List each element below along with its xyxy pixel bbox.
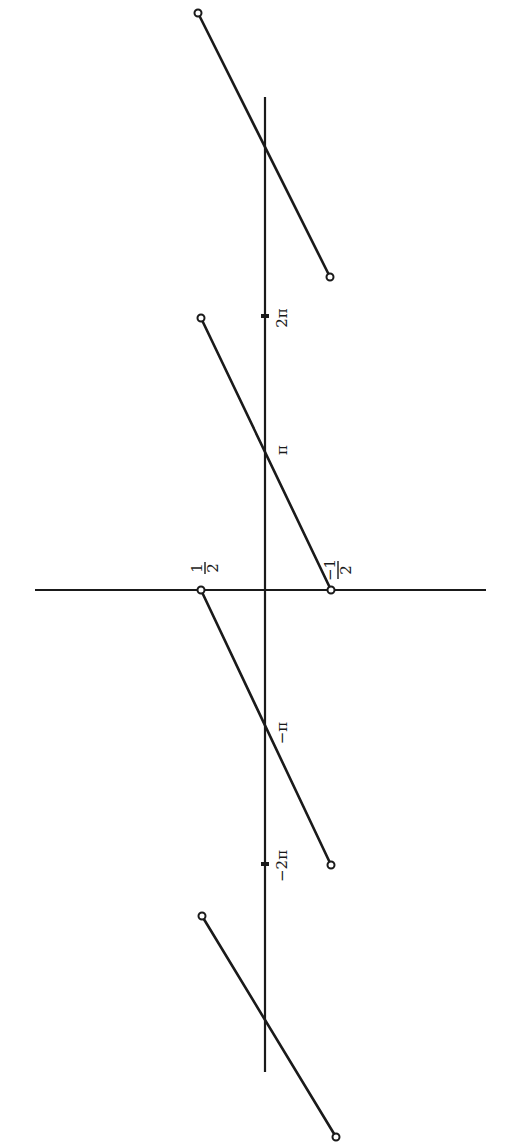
neg-half-denominator: 2 <box>337 565 355 575</box>
tick-neg2pi <box>261 862 269 866</box>
open-endpoint <box>333 1134 340 1141</box>
label-half: 1 2 <box>188 562 222 574</box>
tick-label-pi: π <box>273 445 291 455</box>
open-endpoint <box>328 862 335 869</box>
open-endpoint <box>327 274 334 281</box>
half-denominator: 2 <box>204 563 222 573</box>
open-endpoint <box>198 587 205 594</box>
label-neg-half: −1 2 <box>321 559 355 581</box>
open-endpoint <box>198 315 205 322</box>
open-endpoint <box>328 587 335 594</box>
tick-label-neg2pi: −2π <box>273 850 291 882</box>
segment-neg4pi-neg2pi <box>202 916 336 1137</box>
tick-label-negpi: −π <box>273 722 291 745</box>
open-endpoint <box>199 913 206 920</box>
sawtooth-chart: 2π π −π −2π 1 2 −1 2 <box>0 0 510 1147</box>
tick-2pi <box>261 314 269 318</box>
tick-label-2pi: 2π <box>273 308 291 328</box>
open-endpoint <box>195 10 202 17</box>
